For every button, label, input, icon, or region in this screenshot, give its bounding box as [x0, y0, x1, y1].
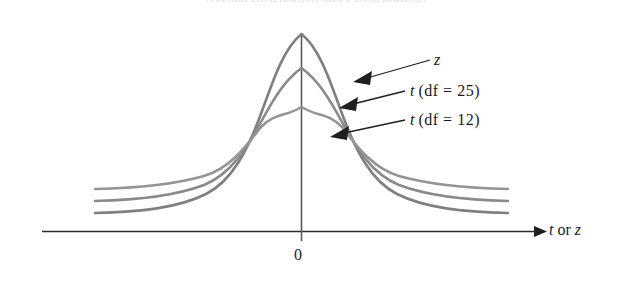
leader-arrowhead-t25 [339, 97, 358, 111]
x-axis-label: t or z [549, 222, 581, 238]
curve-label-t-df25: t (df = 25) [410, 83, 480, 99]
leader-arrowhead-t12 [330, 126, 349, 140]
curve-label-z: z [434, 52, 440, 68]
distribution-plot [0, 0, 632, 295]
curve-label-t12-text: (df = 12) [418, 111, 480, 128]
leader-line-z [367, 60, 430, 78]
origin-tick-label: 0 [294, 247, 302, 263]
curve-label-t-df12: t (df = 12) [410, 112, 480, 128]
x-axis [42, 226, 547, 237]
leader-line-t25 [353, 91, 405, 104]
curve-label-t25-text: (df = 25) [418, 82, 480, 99]
x-axis-label-z: z [575, 221, 581, 238]
leader-line-t12 [344, 120, 405, 133]
leader-arrowhead-z [353, 71, 372, 85]
curve-label-z-symbol: z [434, 51, 440, 68]
x-axis-label-or: or [553, 221, 574, 238]
distribution-figure: Normal Distribution and t Distributions [0, 0, 632, 295]
x-axis-arrowhead [534, 226, 547, 237]
leader-arrow-t25 [339, 91, 405, 111]
